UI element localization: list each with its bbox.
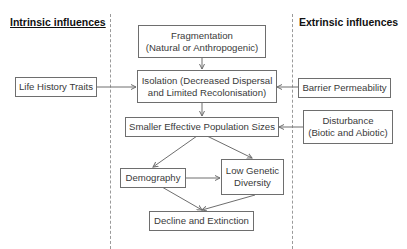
- isolation-node: Isolation (Decreased Dispersal and Limit…: [137, 70, 277, 103]
- low-genetic-diversity-node: Low Genetic Diversity: [221, 159, 284, 195]
- life-history-traits-node: Life History Traits: [15, 77, 97, 97]
- fragmentation-subtitle: (Natural or Anthropogenic): [146, 42, 259, 54]
- low-genetic-line2: Diversity: [234, 177, 271, 189]
- barrier-permeability-node: Barrier Permeability: [298, 78, 391, 98]
- demography-label: Demography: [126, 172, 181, 184]
- decline-and-extinction-node: Decline and Extinction: [149, 211, 254, 231]
- disturbance-node: Disturbance (Biotic and Abiotic): [303, 110, 393, 144]
- decline-and-extinction-label: Decline and Extinction: [154, 215, 249, 227]
- life-history-traits-label: Life History Traits: [19, 81, 93, 93]
- fragmentation-node: Fragmentation (Natural or Anthropogenic): [138, 25, 266, 58]
- barrier-permeability-label: Barrier Permeability: [302, 82, 386, 94]
- low-genetic-line1: Low Genetic: [226, 165, 279, 177]
- disturbance-title: Disturbance: [322, 115, 373, 127]
- isolation-line1: Isolation (Decreased Dispersal: [142, 75, 273, 87]
- fragmentation-title: Fragmentation: [171, 30, 233, 42]
- smaller-effective-population-node: Smaller Effective Population Sizes: [125, 117, 279, 137]
- disturbance-subtitle: (Biotic and Abiotic): [308, 127, 387, 139]
- smaller-effective-population-label: Smaller Effective Population Sizes: [129, 121, 275, 133]
- demography-node: Demography: [120, 168, 186, 188]
- isolation-line2: and Limited Recolonisation): [148, 87, 266, 99]
